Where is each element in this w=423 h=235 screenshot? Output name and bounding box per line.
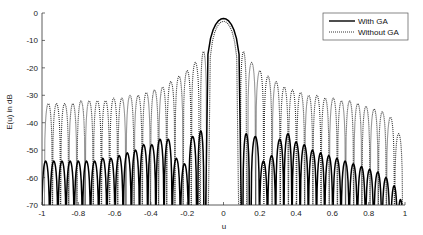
y-tick-label: -10	[26, 36, 38, 45]
legend: With GA Without GA	[323, 13, 408, 40]
y-tick-label: -20	[26, 64, 38, 73]
x-tick-label: 0.4	[291, 209, 303, 218]
y-tick-label: -40	[26, 119, 38, 128]
array-pattern-chart: 0-10-20-30-40-50-60-70 -1-0.8-0.6-0.4-0.…	[0, 0, 423, 235]
y-tick-label: -70	[26, 201, 38, 210]
x-axis-label: u	[222, 222, 226, 231]
legend-label-with-ga: With GA	[358, 17, 388, 26]
y-axis-label: E(u) in dB	[5, 94, 14, 130]
x-tick-label: 0	[221, 209, 226, 218]
y-tick-label: -50	[26, 146, 38, 155]
legend-label-without-ga: Without GA	[358, 28, 400, 37]
x-tick-label: -0.4	[144, 209, 158, 218]
x-tick-label: 0.2	[254, 209, 266, 218]
x-tick-label: 1	[403, 209, 408, 218]
x-tick-label: -0.2	[180, 209, 194, 218]
x-tick-label: -0.6	[108, 209, 122, 218]
x-tick-label: 0.6	[327, 209, 339, 218]
x-tick-label: -1	[38, 209, 46, 218]
y-tick-label: -30	[26, 91, 38, 100]
x-tick-label: 0.8	[363, 209, 375, 218]
y-tick-label: -60	[26, 174, 38, 183]
y-tick-label: 0	[34, 9, 39, 18]
x-tick-label: -0.8	[71, 209, 85, 218]
